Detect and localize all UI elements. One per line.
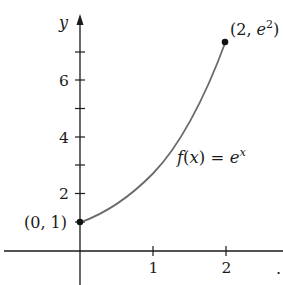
x-axis-label-partial: . — [276, 259, 281, 278]
tick-label-y6: 6 — [59, 72, 69, 90]
exponential-chart: y . 6 4 2 1 2 (0, 1) (2, e2) f(x) = ex — [0, 0, 283, 285]
point-end-label: (2, e2) — [230, 18, 279, 39]
point-start — [77, 219, 84, 226]
y-axis-arrow-icon — [77, 14, 84, 25]
tick-label-y2: 2 — [59, 185, 69, 203]
tick-label-y4: 4 — [59, 129, 69, 147]
point-start-label: (0, 1) — [24, 213, 67, 232]
point-end — [222, 39, 229, 46]
tick-label-x1: 1 — [149, 259, 159, 277]
function-label: f(x) = ex — [175, 145, 246, 167]
y-axis-label: y — [58, 13, 69, 32]
tick-label-x2: 2 — [222, 259, 232, 277]
exp-curve-smooth — [80, 41, 226, 223]
